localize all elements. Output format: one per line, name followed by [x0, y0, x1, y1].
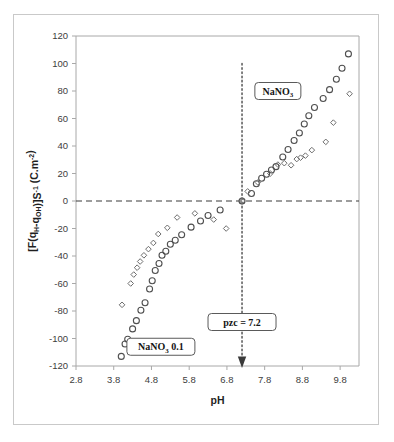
x-tick-label: 7.8: [258, 374, 271, 385]
data-point-diamond: [288, 162, 294, 168]
pzc-label: pzc = 7.2: [208, 314, 276, 331]
data-point-circle: [301, 121, 307, 127]
y-tick-label: 60: [57, 113, 68, 124]
figure-frame: -120-100-80-60-40-200204060801001202.83.…: [13, 14, 379, 425]
data-point-circle: [142, 300, 148, 306]
data-point-circle: [138, 307, 144, 313]
data-point-circle: [311, 105, 317, 111]
data-point-diamond: [165, 225, 171, 231]
data-point-diamond: [131, 272, 137, 278]
y-tick-label: -40: [54, 250, 68, 261]
data-point-circle: [205, 212, 211, 218]
data-point-circle: [339, 65, 345, 71]
data-point-circle: [149, 278, 155, 284]
y-tick-label: 0: [63, 195, 68, 206]
data-point-circle: [130, 326, 136, 332]
x-tick-label: 8.8: [296, 374, 309, 385]
y-tick-label: -120: [49, 360, 68, 371]
pzc-label-text: pzc = 7.2: [223, 317, 261, 328]
data-point-circle: [163, 248, 169, 254]
data-point-circle: [306, 113, 312, 119]
chart-canvas: -120-100-80-60-40-200204060801001202.83.…: [14, 15, 380, 426]
data-point-diamond: [134, 265, 140, 271]
data-point-circle: [320, 96, 326, 102]
data-point-diamond: [174, 215, 180, 221]
y-tick-label: -80: [54, 305, 68, 316]
x-tick-label: 4.8: [145, 374, 158, 385]
data-point-circle: [285, 146, 291, 152]
data-point-diamond: [137, 259, 143, 265]
data-point-diamond: [281, 160, 287, 166]
data-point-diamond: [146, 246, 152, 252]
x-tick-label: 9.8: [334, 374, 347, 385]
y-tick-label: 20: [57, 168, 68, 179]
data-point-circle: [327, 87, 333, 93]
y-axis-title: [F(qH-qOH)]S-1 (C.m-2): [24, 150, 43, 252]
y-tick-label: 40: [57, 140, 68, 151]
data-point-diamond: [141, 253, 147, 259]
data-point-circle: [291, 138, 297, 144]
data-point-diamond: [128, 281, 134, 287]
data-point-circle: [147, 286, 153, 292]
series-nano3-0-1: [119, 91, 352, 308]
y-tick-label: -100: [49, 333, 68, 344]
data-point-diamond: [331, 120, 337, 126]
y-tick-label: -20: [54, 223, 68, 234]
x-axis-title: pH: [211, 394, 225, 406]
data-point-diamond: [223, 226, 229, 232]
nano3-upper-label: NaNO3: [255, 83, 301, 100]
y-tick-label: -60: [54, 278, 68, 289]
data-point-circle: [156, 261, 162, 267]
data-point-circle: [133, 318, 139, 324]
data-point-circle: [118, 353, 124, 359]
data-point-diamond: [151, 240, 157, 246]
data-point-circle: [280, 154, 286, 160]
data-point-circle: [152, 267, 158, 273]
data-point-circle: [296, 130, 302, 136]
x-tick-label: 6.8: [220, 374, 233, 385]
data-point-circle: [172, 237, 178, 243]
data-point-diamond: [347, 91, 353, 97]
data-point-circle: [248, 190, 254, 196]
data-point-diamond: [119, 302, 125, 308]
data-point-circle: [188, 224, 194, 230]
y-tick-label: 80: [57, 85, 68, 96]
data-point-diamond: [309, 147, 315, 153]
data-point-circle: [345, 51, 351, 57]
data-point-diamond: [211, 217, 217, 223]
y-tick-label: 100: [52, 58, 68, 69]
data-point-diamond: [323, 139, 329, 145]
nano3-lower-label: NaNO3 0.1: [127, 338, 195, 355]
x-tick-label: 5.8: [183, 374, 196, 385]
x-tick-label: 2.8: [69, 374, 82, 385]
data-point-circle: [198, 218, 204, 224]
data-point-diamond: [192, 211, 198, 217]
data-point-circle: [333, 76, 339, 82]
data-point-circle: [179, 232, 185, 238]
data-point-diamond: [155, 231, 161, 237]
x-tick-label: 3.8: [107, 374, 120, 385]
y-tick-label: 120: [52, 30, 68, 41]
data-point-circle: [217, 207, 223, 213]
